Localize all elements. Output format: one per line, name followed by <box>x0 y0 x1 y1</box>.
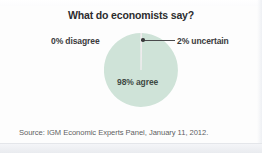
label-uncertain: 2% uncertain <box>177 36 229 46</box>
scan-bottom-band <box>0 143 262 153</box>
chart-title: What do economists say? <box>0 9 262 21</box>
label-disagree: 0% disagree <box>51 36 100 46</box>
uncertain-marker-dot <box>141 38 145 42</box>
scan-top-shade <box>0 0 262 6</box>
pie-chart-svg <box>104 33 178 107</box>
source-note: Source: IGM Economic Experts Panel, Janu… <box>19 128 208 137</box>
scan-right-edge <box>257 0 262 153</box>
label-agree: 98% agree <box>117 77 158 87</box>
chart-figure: What do economists say? 0% disagree 2% u… <box>0 0 262 153</box>
uncertain-leader-line <box>145 40 175 41</box>
pie-chart <box>104 33 178 107</box>
